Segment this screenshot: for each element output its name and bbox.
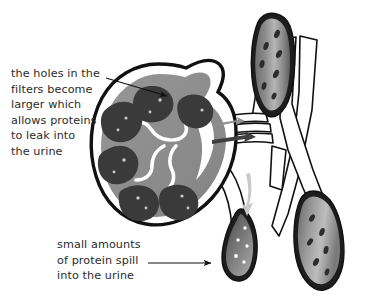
pyramid-bottom-right [159,185,198,220]
kidney-diagram: the holes in the filters become larger w… [0,0,373,303]
annotation-text-protein: small amounts of protein spill into the … [57,237,187,284]
annotation-text-filters: the holes in the filters become larger w… [11,66,141,160]
lower-right-vessel [294,191,344,290]
upper-vessel [251,13,295,116]
protein-spill-vessel [222,209,257,281]
